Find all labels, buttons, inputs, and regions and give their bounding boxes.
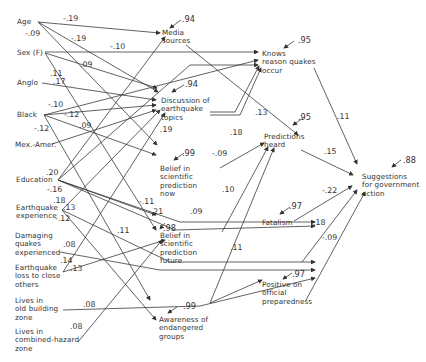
residual-positive: .97 bbox=[292, 269, 305, 279]
node-age: Age bbox=[17, 18, 31, 26]
coef-fatal-sugg: -.22 bbox=[322, 186, 337, 195]
node-combined-hazard: Lives in combined-hazard zone bbox=[15, 328, 79, 353]
node-discussion: Discussion of earthquake topics bbox=[161, 97, 210, 122]
node-belief-now: Belief in scientific prediction now bbox=[160, 165, 197, 199]
node-old-building: Lives in old building zone bbox=[15, 297, 58, 322]
residual-media: .94 bbox=[182, 14, 195, 24]
coef-pos-sugg: -.09 bbox=[322, 233, 337, 242]
residual-predictions: .95 bbox=[298, 112, 311, 122]
coef-age-bnow: -.09 bbox=[25, 29, 40, 38]
coef-bfut-pred: .10 bbox=[222, 185, 234, 194]
coef-black-disc: -.12 bbox=[64, 110, 79, 119]
node-knows-reason: Knows reason quakes occur bbox=[262, 50, 316, 75]
coef-edu-fatal-1: -.11 bbox=[139, 197, 154, 206]
node-predictions-heard: Predictions heard bbox=[264, 133, 305, 150]
coef-eqloss-pred: .13 bbox=[70, 264, 82, 273]
node-suggestions: Suggestions for government action bbox=[362, 173, 419, 198]
coef-edu-bfut: -.16 bbox=[47, 185, 62, 194]
node-anglo: Anglo bbox=[17, 79, 38, 87]
coef-age-media: -.19 bbox=[63, 14, 78, 23]
residual-discussion: .94 bbox=[185, 79, 198, 89]
coef-combhz-bfut: .08 bbox=[70, 322, 82, 331]
coef-damq-pos: .08 bbox=[63, 240, 75, 249]
coef-aware-pred: .11 bbox=[230, 243, 242, 252]
coef-pred-sugg: .15 bbox=[324, 147, 336, 156]
node-earthquake-loss: Earthquake loss to close others bbox=[15, 264, 60, 289]
residual-belief-now: .99 bbox=[182, 148, 195, 158]
coef-oldbld-pos: .08 bbox=[83, 300, 95, 309]
coef-age-disc: -.19 bbox=[71, 34, 86, 43]
coef-sex-know: -.10 bbox=[110, 42, 125, 51]
residual-knows: .95 bbox=[298, 35, 311, 45]
node-belief-future: Belief in scientific prediction future bbox=[160, 232, 197, 266]
coef-sex-disc: .09 bbox=[80, 60, 92, 69]
node-media-sources: Media sources bbox=[162, 29, 190, 46]
node-awareness: Awareness of endangered groups bbox=[159, 316, 208, 341]
coef-eqexp-aware: -.12 bbox=[55, 214, 70, 223]
coef-know-sugg: .11 bbox=[337, 112, 349, 121]
node-earthquake-experience: Earthquake experience bbox=[16, 204, 58, 221]
node-sex: Sex (F) bbox=[17, 49, 43, 57]
residual-awareness: .99 bbox=[183, 301, 196, 311]
coef-anglo-disc: .17 bbox=[53, 77, 65, 86]
coef-bnow-pred: -.09 bbox=[212, 149, 227, 158]
node-black: Black bbox=[17, 111, 37, 119]
coef-black-bnow: -.12 bbox=[34, 124, 49, 133]
residual-belief-future: .98 bbox=[163, 223, 176, 233]
coef-media-pred: .13 bbox=[255, 108, 267, 117]
coef-edu-fatal-2: -.21 bbox=[148, 207, 163, 216]
coef-mex-disc: .09 bbox=[79, 121, 91, 130]
node-fatalism: Fatalism bbox=[262, 219, 293, 227]
node-mex-amer: Mex.-Amer. bbox=[15, 141, 56, 149]
coef-black-know: -.10 bbox=[48, 100, 63, 109]
coef-disc-pred: .18 bbox=[230, 128, 242, 137]
coef-eqexp-pred: .13 bbox=[63, 203, 75, 212]
residual-fatalism: .97 bbox=[289, 201, 302, 211]
coef-eqexp-pos: .11 bbox=[117, 226, 129, 235]
coef-edu-know: .19 bbox=[160, 125, 172, 134]
coef-bfut-fatal: .09 bbox=[190, 207, 202, 216]
coef-edu-media: .20 bbox=[46, 168, 58, 177]
residual-suggestions: .88 bbox=[403, 155, 416, 165]
node-damaging-quakes: Damaging quakes experienced bbox=[15, 232, 61, 257]
node-positive-official: Positive on official preparedness bbox=[262, 281, 312, 306]
coef-aware-sugg: .18 bbox=[313, 218, 325, 227]
node-education: Education bbox=[16, 176, 53, 184]
